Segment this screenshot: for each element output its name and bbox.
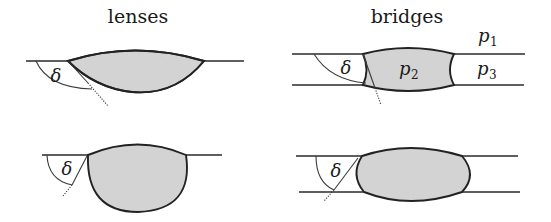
angle-label-delta: δ [51, 65, 62, 86]
tangent-line [72, 156, 87, 185]
panel-bridge-shallow: δ p 1 p 2 p 3 [292, 25, 525, 105]
panel-bridge-deep: δ [296, 148, 520, 201]
svg-text:2: 2 [411, 68, 419, 82]
column-title-lenses: lenses [108, 5, 168, 27]
column-title-bridges: bridges [371, 5, 444, 27]
phase-label-p1: p 1 [478, 25, 498, 49]
svg-text:1: 1 [490, 35, 498, 49]
svg-text:p: p [477, 58, 489, 79]
diagram-canvas: lenses bridges δ δ p [0, 0, 551, 222]
svg-text:p: p [399, 58, 411, 79]
phase-label-p3: p 3 [477, 58, 497, 82]
angle-label-delta: δ [331, 160, 342, 181]
svg-text:3: 3 [489, 68, 497, 82]
angle-label-delta: δ [62, 158, 73, 179]
tangent-line-dotted [63, 185, 72, 196]
svg-text:p: p [478, 25, 490, 46]
panel-lens-shallow: δ [26, 51, 244, 107]
angle-label-delta: δ [341, 57, 352, 78]
panel-lens-deep: δ [42, 145, 222, 213]
tangent-line-dotted [375, 88, 381, 105]
